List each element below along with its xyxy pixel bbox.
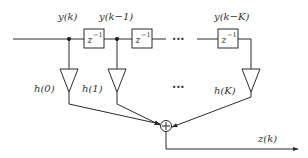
- delay-box-2: z −1: [132, 29, 152, 48]
- tap-1: [108, 39, 160, 125]
- label-h1: h(1): [82, 83, 103, 94]
- delay-line: z −1 z −1 z −1 ···: [13, 29, 251, 69]
- delay-box-1-label: z: [87, 35, 93, 45]
- ellipsis-taps: ···: [172, 80, 185, 94]
- summing-junction: [161, 121, 172, 132]
- gain-triangle-h1: [108, 69, 126, 92]
- gain-triangle-h0: [60, 69, 78, 92]
- tap-K: [172, 69, 260, 127]
- ellipsis-delay: ···: [172, 32, 185, 46]
- fir-filter-diagram: z −1 z −1 z −1 ··· y(k) y(k−1) y(k−K) h(…: [0, 0, 308, 158]
- delay-box-1: z −1: [84, 29, 104, 48]
- delay-box-K: z −1: [218, 29, 238, 48]
- delay-box-2-exponent: −1: [141, 31, 151, 39]
- label-z-k: z(k): [257, 133, 277, 144]
- label-y-k: y(k): [57, 11, 78, 22]
- output-wire: [166, 132, 298, 150]
- tap-0: [60, 39, 160, 124]
- gain-triangle-hK: [242, 69, 260, 92]
- wire-last-box-out: [238, 39, 251, 69]
- delay-box-K-exponent: −1: [227, 31, 237, 39]
- delay-box-2-label: z: [135, 35, 141, 45]
- delay-box-K-label: z: [221, 35, 227, 45]
- label-hK: h(K): [214, 85, 236, 96]
- delay-box-1-exponent: −1: [93, 31, 103, 39]
- label-y-k-minus-K: y(k−K): [213, 11, 249, 22]
- label-y-k-minus-1: y(k−1): [98, 11, 133, 22]
- label-h0: h(0): [34, 83, 55, 94]
